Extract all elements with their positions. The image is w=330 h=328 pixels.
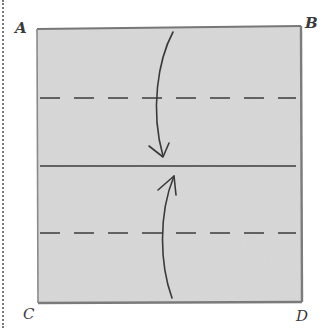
corner-label-b: B [305,16,318,31]
origami-diagram: A B C D [0,0,330,328]
paper-square [37,26,302,303]
corner-label-c: C [23,307,34,322]
corner-label-a: A [15,21,27,36]
diagram-svg [0,0,330,328]
corner-label-d: D [296,309,308,324]
